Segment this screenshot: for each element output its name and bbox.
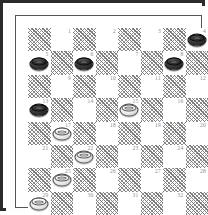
board-square-unplayable[interactable] [96,145,119,168]
board-square-28[interactable]: 28 [186,168,206,191]
piece-ridge [192,37,201,40]
board-square-3[interactable]: 3 [141,28,164,51]
board-square-unplayable[interactable] [118,28,141,51]
board-square-unplayable[interactable] [186,51,206,74]
square-number-label: 23 [132,145,138,152]
black-piece-13[interactable] [30,104,49,117]
square-number-label: 11 [155,75,161,82]
board-square-unplayable[interactable] [28,168,51,191]
board-square-5[interactable]: 5 [28,51,51,74]
board-square-unplayable[interactable] [51,98,74,121]
board-square-unplayable[interactable] [141,145,164,168]
board-square-14[interactable]: 14 [73,98,96,121]
board-square-31[interactable]: 31 [118,192,141,211]
board-square-unplayable[interactable] [186,192,206,211]
square-number-label: 14 [87,98,93,105]
white-piece-29[interactable] [30,197,49,210]
square-number-label: 19 [155,122,161,129]
square-number-label: 7 [135,51,138,58]
board-square-unplayable[interactable] [96,98,119,121]
board-square-unplayable[interactable] [73,122,96,145]
piece-ridge [35,107,44,110]
board-square-unplayable[interactable] [51,51,74,74]
board-square-unplayable[interactable] [28,75,51,98]
black-piece-6[interactable] [75,57,94,70]
board-square-1[interactable]: 1 [51,28,74,51]
board-square-25[interactable]: 25 [51,168,74,191]
board-square-18[interactable]: 18 [96,122,119,145]
board-square-26[interactable]: 26 [96,168,119,191]
piece-ridge [125,107,134,110]
board-square-unplayable[interactable] [118,75,141,98]
black-piece-5[interactable] [30,57,49,70]
board-square-13[interactable]: 13 [28,98,51,121]
black-piece-4[interactable] [187,34,205,47]
board-square-23[interactable]: 23 [118,145,141,168]
board-square-unplayable[interactable] [141,51,164,74]
black-piece-8[interactable] [165,57,184,70]
board-square-unplayable[interactable] [51,192,74,211]
board-square-20[interactable]: 20 [186,122,206,145]
piece-ridge [57,130,66,133]
board-square-30[interactable]: 30 [73,192,96,211]
board-square-22[interactable]: 22 [73,145,96,168]
square-number-label: 28 [200,168,205,175]
board-square-12[interactable]: 12 [186,75,206,98]
board-square-unplayable[interactable] [118,122,141,145]
square-number-label: 31 [132,192,138,199]
board-square-unplayable[interactable] [73,168,96,191]
board-square-unplayable[interactable] [186,145,206,168]
board-square-unplayable[interactable] [28,28,51,51]
board-square-unplayable[interactable] [73,75,96,98]
white-piece-15[interactable] [120,104,139,117]
board-square-unplayable[interactable] [141,192,164,211]
piece-ridge [57,177,66,180]
board-square-2[interactable]: 2 [96,28,119,51]
piece-ridge [35,60,44,63]
board-square-11[interactable]: 11 [141,75,164,98]
board-inner-frame: 1234567891011121314151617181920212223242… [15,15,202,208]
white-piece-25[interactable] [52,174,71,187]
white-piece-22[interactable] [75,151,94,164]
board-square-16[interactable]: 16 [163,98,186,121]
board-square-unplayable[interactable] [186,98,206,121]
board-square-21[interactable]: 21 [28,145,51,168]
board-square-unplayable[interactable] [73,28,96,51]
board-square-6[interactable]: 6 [73,51,96,74]
board-square-unplayable[interactable] [141,98,164,121]
board-square-9[interactable]: 9 [51,75,74,98]
board-square-32[interactable]: 32 [163,192,186,211]
board-square-unplayable[interactable] [96,192,119,211]
board-square-unplayable[interactable] [96,51,119,74]
board-square-19[interactable]: 19 [141,122,164,145]
board-square-27[interactable]: 27 [141,168,164,191]
board-square-10[interactable]: 10 [96,75,119,98]
board-gutter: 1234567891011121314151617181920212223242… [6,6,205,211]
square-number-label: 12 [200,75,205,82]
board-square-unplayable[interactable] [28,122,51,145]
square-number-label: 3 [158,28,161,35]
board-square-8[interactable]: 8 [163,51,186,74]
square-number-label: 30 [87,192,93,199]
square-number-label: 9 [68,75,71,82]
board-square-unplayable[interactable] [118,168,141,191]
board-square-15[interactable]: 15 [118,98,141,121]
board-square-unplayable[interactable] [51,145,74,168]
board-square-4[interactable]: 4 [186,28,206,51]
draughts-board-grid[interactable]: 1234567891011121314151617181920212223242… [28,28,205,211]
board-square-unplayable[interactable] [163,122,186,145]
board-square-29[interactable]: 29 [28,192,51,211]
board-square-unplayable[interactable] [163,28,186,51]
white-piece-17[interactable] [52,127,71,140]
square-number-label: 2 [113,28,116,35]
board-square-24[interactable]: 24 [163,145,186,168]
board-square-7[interactable]: 7 [118,51,141,74]
board-square-unplayable[interactable] [163,168,186,191]
square-number-label: 20 [200,122,205,129]
board-square-17[interactable]: 17 [51,122,74,145]
square-number-label: 32 [177,192,183,199]
square-number-label: 26 [110,168,116,175]
board-square-unplayable[interactable] [163,75,186,98]
board-outer-frame: 1234567891011121314151617181920212223242… [0,0,205,211]
square-number-label: 1 [68,28,71,35]
